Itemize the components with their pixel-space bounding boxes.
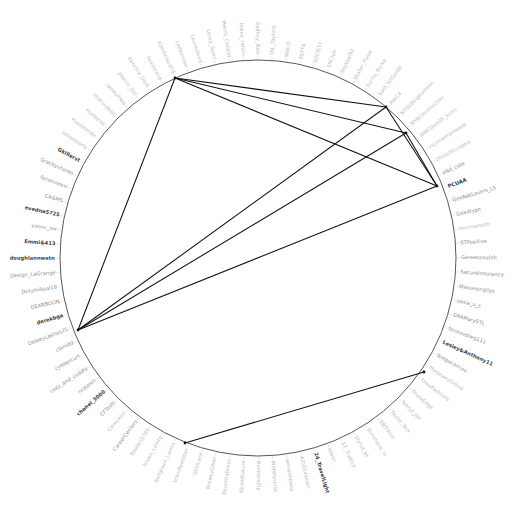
label-tick bbox=[300, 61, 301, 64]
label-tick bbox=[314, 449, 315, 452]
label-tick bbox=[149, 88, 151, 91]
label-tick bbox=[417, 137, 419, 139]
node-label: ncdaren bbox=[77, 377, 97, 394]
label-tick bbox=[378, 417, 380, 419]
label-tick bbox=[188, 445, 189, 448]
label-tick bbox=[88, 366, 91, 368]
node-label: TAL_TaylorS bbox=[268, 25, 277, 57]
label-tick bbox=[105, 126, 107, 128]
graph-edge bbox=[78, 107, 386, 330]
node-label: PCUAA bbox=[447, 177, 467, 189]
label-tick bbox=[115, 399, 117, 401]
label-tick bbox=[444, 187, 447, 188]
graph-edge bbox=[78, 133, 406, 330]
node-label: RWC4 bbox=[388, 90, 403, 106]
label-tick bbox=[69, 188, 72, 189]
graph-node-top-hub[interactable] bbox=[174, 77, 177, 80]
label-tick bbox=[408, 125, 410, 127]
label-tick bbox=[215, 453, 216, 456]
label-tick bbox=[215, 61, 216, 64]
label-tick bbox=[74, 341, 77, 342]
label-tick bbox=[353, 81, 354, 84]
node-label: BirdieNature bbox=[238, 460, 246, 493]
graph-node-upper-right-b[interactable] bbox=[405, 132, 408, 135]
node-label: GeeNatLovers_L5 bbox=[452, 184, 497, 204]
circular-network-figure: TAL_TaylorSWatchSOFFASOCIETYSNClubSkyVaa… bbox=[0, 0, 516, 519]
graph-canvas: TAL_TaylorSWatchSOFFASOCIETYSNClubSkyVaa… bbox=[0, 0, 516, 519]
graph-node-right-hub[interactable] bbox=[436, 185, 439, 188]
graph-node-lower-right[interactable] bbox=[423, 371, 426, 374]
label-tick bbox=[88, 149, 91, 151]
node-label: Dotymikaal19 bbox=[21, 284, 58, 296]
label-tick bbox=[301, 452, 302, 455]
node-label: Hillsmoorte bbox=[61, 129, 89, 150]
graph-node-bottom-hub[interactable] bbox=[184, 442, 187, 445]
node-label-group: TAL_TaylorSWatchSOFFASOCIETYSNClubSkyVaa… bbox=[10, 20, 504, 495]
label-tick bbox=[399, 398, 401, 400]
node-label: brandlywilden bbox=[171, 447, 190, 484]
label-tick bbox=[453, 300, 456, 301]
label-tick bbox=[409, 388, 411, 390]
graph-edge bbox=[78, 186, 437, 330]
label-tick bbox=[115, 115, 117, 117]
graph-node-upper-right-a[interactable] bbox=[385, 106, 388, 109]
node-label: CA&M5 bbox=[44, 192, 64, 203]
label-tick bbox=[439, 340, 442, 341]
node-label: SkyVaal82 bbox=[339, 47, 356, 74]
label-tick bbox=[417, 377, 419, 379]
label-tick bbox=[64, 314, 67, 315]
node-label: ssbsn_ bbox=[326, 447, 339, 466]
node-label: SOCIETY bbox=[311, 40, 323, 64]
node-label: Merris_ChOOd bbox=[220, 20, 232, 58]
node-label: BrewsyOlson bbox=[205, 456, 219, 490]
label-tick bbox=[439, 174, 442, 175]
node-label: doughlannwatn bbox=[10, 255, 56, 262]
label-tick bbox=[433, 161, 436, 162]
label-tick bbox=[449, 201, 452, 202]
node-label: evonc_lex bbox=[31, 222, 57, 233]
label-tick bbox=[81, 161, 84, 162]
label-tick bbox=[61, 301, 64, 302]
label-tick bbox=[341, 439, 342, 442]
node-label: aNd_cute bbox=[441, 160, 466, 176]
node-label: Gkillerst bbox=[57, 146, 82, 163]
edge-group bbox=[78, 78, 437, 443]
node-label: DEARBOON bbox=[30, 298, 61, 310]
node-label: Design_LaGrange bbox=[10, 269, 56, 279]
node-label: SNClub bbox=[325, 49, 337, 69]
node-label: AZsOutwhen bbox=[299, 456, 312, 490]
label-tick bbox=[187, 69, 188, 72]
label-tick bbox=[365, 88, 367, 91]
label-tick bbox=[149, 426, 151, 429]
label-tick bbox=[125, 106, 127, 108]
label-tick bbox=[452, 215, 455, 216]
label-tick bbox=[161, 81, 162, 84]
label-tick bbox=[388, 105, 390, 107]
label-tick bbox=[69, 328, 72, 329]
label-tick bbox=[398, 115, 400, 117]
node-dot-group bbox=[77, 77, 439, 445]
node-label: sonia_u_s bbox=[456, 297, 482, 309]
node-label: SWTdsss bbox=[378, 418, 397, 440]
node-label: Stylist_bt bbox=[353, 434, 371, 458]
label-tick bbox=[433, 353, 436, 354]
node-label: Mikee_rahim bbox=[237, 23, 246, 56]
node-label: SOFFA bbox=[297, 42, 306, 60]
label-tick bbox=[81, 354, 84, 355]
node-label: BelmoreZip bbox=[255, 461, 262, 491]
label-tick bbox=[425, 149, 428, 151]
node-label: Sydney_Bale bbox=[254, 22, 261, 55]
label-tick bbox=[354, 433, 355, 436]
label-tick bbox=[366, 425, 368, 428]
node-label: LaurasNord bbox=[190, 34, 204, 64]
graph-node-left-hub[interactable] bbox=[77, 329, 80, 332]
label-tick bbox=[161, 433, 162, 436]
node-label: Emmi&413 bbox=[24, 238, 56, 246]
label-tick bbox=[377, 96, 379, 98]
node-label: STPositive bbox=[460, 238, 487, 246]
node-label: derekbga bbox=[36, 312, 65, 327]
label-tick bbox=[201, 449, 202, 452]
node-label: 24_TravelLight bbox=[312, 452, 331, 495]
node-label: evedna5725 bbox=[24, 204, 60, 217]
node-label: GlitzLara bbox=[191, 452, 203, 476]
